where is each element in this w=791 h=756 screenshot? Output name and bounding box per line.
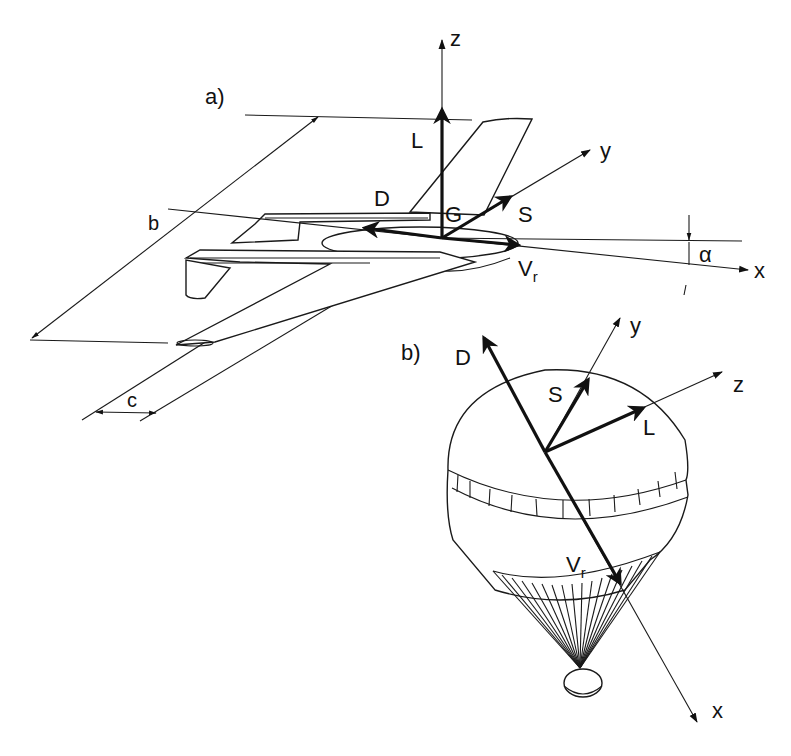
y-axis-label-b: y	[630, 313, 641, 338]
x-axis-label-a: x	[754, 258, 765, 283]
diagram-canvas: z y x α L D S Vr G a) b c	[0, 0, 791, 756]
gondola	[564, 669, 602, 697]
panel-b-balloon: x y z D Vr S L b)	[401, 313, 744, 723]
chord-label: c	[127, 389, 137, 411]
side-label-a: S	[518, 202, 533, 227]
ventral-fin	[186, 260, 230, 299]
center-of-gravity-label: G	[445, 202, 462, 227]
drag-label-b: D	[455, 345, 471, 370]
x-axis-label-b: x	[712, 698, 723, 723]
main-wing	[176, 250, 475, 345]
lift-label-a: L	[411, 128, 423, 153]
side-label-b: S	[548, 382, 563, 407]
tail-fin	[410, 118, 532, 215]
velocity-label-a: Vr	[518, 256, 538, 285]
lift-label-b: L	[643, 415, 655, 440]
panel-a-aircraft: z y x α L D S Vr G a) b c	[30, 26, 765, 421]
y-axis-label-a: y	[600, 138, 611, 163]
span-label: b	[148, 212, 159, 234]
drag-label-a: D	[374, 186, 390, 211]
z-axis-label-b: z	[733, 372, 744, 397]
panel-a-label: a)	[205, 84, 225, 109]
z-axis-label-a: z	[450, 26, 461, 51]
panel-b-label: b)	[401, 340, 421, 365]
alpha-label: α	[699, 242, 712, 267]
